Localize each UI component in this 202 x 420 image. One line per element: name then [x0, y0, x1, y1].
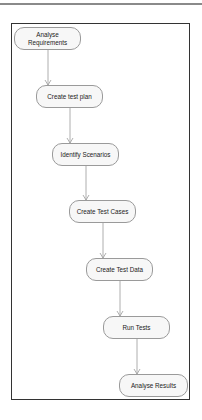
node-label-line2: Requirements [28, 39, 67, 46]
node-create-test-data: Create Test Data [86, 258, 153, 281]
node-create-test-cases: Create Test Cases [69, 200, 136, 223]
node-identify-scenarios: Identify Scenarios [52, 143, 119, 166]
node-label: Create Test Cases [77, 208, 129, 216]
arrow-n6-n7 [134, 339, 140, 374]
node-label: Create Test Data [96, 266, 143, 274]
arrow-n1-n2 [45, 50, 51, 85]
node-analyse-results: Analyse Results [119, 374, 188, 397]
arrow-n4-n5 [100, 223, 106, 258]
node-analyse-requirements: AnalyseRequirements [14, 27, 81, 50]
node-label: Identify Scenarios [60, 151, 110, 159]
node-create-test-plan: Create test plan [36, 85, 103, 108]
node-label: Analyse Results [131, 382, 176, 390]
arrow-n3-n4 [83, 166, 89, 200]
node-label: AnalyseRequirements [28, 31, 67, 46]
arrow-n2-n3 [67, 108, 73, 143]
node-label: Run Tests [123, 324, 151, 332]
node-label-line1: Analyse [36, 31, 58, 38]
arrow-n5-n6 [117, 281, 123, 316]
node-run-tests: Run Tests [103, 316, 170, 339]
node-label: Create test plan [47, 93, 91, 101]
